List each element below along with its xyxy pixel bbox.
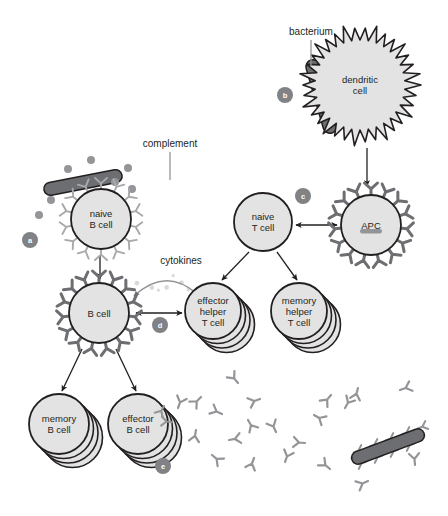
cell-label: B cell (126, 424, 149, 435)
diagram-canvas: naiveB celldendriticcellAPCnaiveT cellB … (0, 0, 448, 516)
cell-label: B cell (89, 219, 112, 230)
cytokine-speck (157, 288, 160, 291)
complement-particle (64, 165, 72, 173)
antibody (227, 371, 242, 386)
cell-memory-b-cell: memoryB cell (29, 394, 103, 468)
cells-group: naiveB celldendriticcellAPCnaiveT cellB … (29, 26, 421, 467)
cell-memory-helper-t-cell: memoryhelperT cell (271, 283, 341, 353)
complement-label: complement (143, 138, 198, 149)
step-marker-letter: b (283, 91, 288, 100)
cell-label: T cell (252, 222, 275, 233)
antibody (341, 396, 355, 411)
step-marker-letter: d (158, 321, 163, 330)
antibody (245, 456, 258, 470)
leader-lines-group (170, 40, 311, 180)
antibody (293, 437, 305, 448)
arrow-tcell-to-memory-helper (277, 252, 297, 280)
cell-apc: APC (329, 183, 414, 267)
cell-effector-b-cell: effectorB cell (108, 394, 182, 468)
arrow-tcell-to-effector-helper (222, 252, 249, 280)
arrow-bcell-to-effector-b (116, 349, 136, 391)
cell-effector-helper-t-cell: effectorhelperT cell (185, 283, 255, 353)
antibody (189, 429, 201, 442)
cell-label: effector (197, 295, 229, 306)
complement-particle (87, 156, 95, 164)
cell-activated-b-cell: B cell (57, 271, 142, 355)
antibody (312, 411, 327, 425)
cytokine-speck (135, 281, 140, 286)
cell-naive-b-cell: naiveB cell (60, 178, 143, 260)
complement-particle (124, 164, 132, 172)
cell-label: dendritic (342, 74, 378, 85)
antibody (355, 476, 370, 490)
antibody (244, 418, 258, 433)
antibody (267, 419, 281, 434)
antibody (280, 449, 293, 463)
antibody (409, 453, 420, 465)
antibody (189, 393, 204, 408)
antibody (209, 405, 224, 419)
cytokines-label: cytokines (160, 255, 202, 266)
immunology-diagram: naiveB celldendriticcellAPCnaiveT cellB … (0, 0, 448, 516)
step-marker-c[interactable]: c (295, 188, 311, 204)
antibody (320, 392, 335, 407)
antibody-coated-bacterium (348, 421, 433, 470)
cell-label: naive (90, 208, 113, 219)
step-marker-a[interactable]: a (22, 232, 38, 248)
antibodies-group (173, 371, 420, 490)
cell-label: B cell (47, 424, 70, 435)
antibody (318, 458, 333, 473)
cell-label: B cell (87, 308, 110, 319)
cell-label: T cell (202, 317, 225, 328)
cell-label: T cell (288, 317, 311, 328)
cytokine-speck (172, 274, 175, 277)
cell-label: cell (353, 85, 367, 96)
antibody (350, 387, 363, 401)
antibody (173, 395, 186, 409)
cell-label: APC (361, 220, 381, 231)
step-marker-letter: e (161, 462, 165, 471)
bacterium-label: bacterium (289, 26, 333, 37)
step-marker-e[interactable]: e (155, 458, 171, 474)
cell-label: memory (282, 295, 317, 306)
antibody (228, 433, 241, 445)
step-marker-b[interactable]: b (277, 87, 293, 103)
antibody (247, 394, 261, 407)
cell-naive-t-cell: naiveT cell (234, 193, 292, 251)
cell-label: helper (286, 306, 312, 317)
arrow-bcell-to-memory-b (62, 349, 82, 391)
complement-particle (47, 196, 55, 204)
antibody (209, 451, 224, 466)
step-marker-letter: c (301, 192, 305, 201)
cell-label: memory (42, 413, 77, 424)
cell-label: effector (122, 413, 154, 424)
cytokine-speck (150, 285, 155, 290)
cytokine-speck (164, 285, 169, 290)
cell-label: helper (200, 306, 226, 317)
complement-particle (35, 211, 43, 219)
cell-label: naive (252, 211, 275, 222)
step-marker-d[interactable]: d (152, 317, 168, 333)
antibody (398, 381, 412, 394)
cell-dendritic-cell: dendriticcell (300, 26, 421, 145)
